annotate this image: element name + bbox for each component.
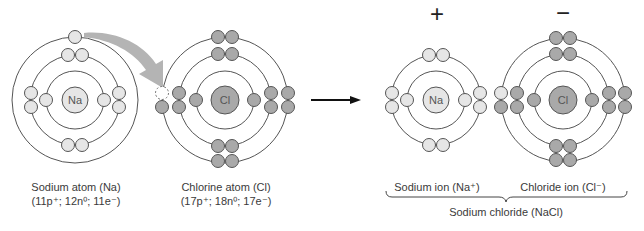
gained-electron <box>495 87 508 100</box>
electron <box>76 49 89 62</box>
electron <box>25 101 38 114</box>
electron <box>550 154 563 167</box>
electron <box>423 49 436 62</box>
electron <box>474 87 487 100</box>
electron <box>528 94 541 107</box>
sodium-chloride-label: Sodium chloride (NaCl) <box>449 206 563 218</box>
electron <box>401 94 414 107</box>
right-arrow-icon <box>311 96 361 104</box>
electron <box>173 87 186 100</box>
chlorine-atom-composition: (17p⁺; 18n⁰; 17e⁻) <box>181 195 272 207</box>
electron <box>550 140 563 153</box>
electron <box>564 32 577 45</box>
electron <box>226 140 239 153</box>
electron <box>564 140 577 153</box>
electron <box>62 49 75 62</box>
electron <box>248 94 261 107</box>
electron <box>511 87 524 100</box>
sodium-atom-composition: (11p⁺; 12n⁰; 11e⁻) <box>32 195 121 207</box>
electron <box>386 87 399 100</box>
electron <box>156 101 169 114</box>
electron <box>62 139 75 152</box>
electron <box>113 101 126 114</box>
electron <box>212 31 225 44</box>
electron <box>25 87 38 100</box>
chloride-ion: − Cl <box>495 0 632 167</box>
electron <box>459 94 472 107</box>
electron <box>212 155 225 168</box>
sodium-atom: Na <box>12 31 138 164</box>
chlorine-nucleus-label: Cl <box>220 94 230 106</box>
electron <box>564 154 577 167</box>
electron <box>282 101 295 114</box>
electron <box>190 94 203 107</box>
electron <box>386 101 399 114</box>
electron <box>603 87 616 100</box>
electron <box>212 140 225 153</box>
valence-electron <box>69 31 82 44</box>
electron <box>265 101 278 114</box>
electron <box>265 87 278 100</box>
chloride-ion-label: Chloride ion (Cl⁻) <box>520 181 605 193</box>
electron <box>226 155 239 168</box>
electron <box>40 94 53 107</box>
electron <box>113 87 126 100</box>
electron <box>423 139 436 152</box>
positive-charge-icon: + <box>430 0 444 27</box>
electron <box>619 101 632 114</box>
sodium-ion-label: Sodium ion (Na⁺) <box>394 181 479 193</box>
electron <box>564 48 577 61</box>
electron <box>226 31 239 44</box>
electron <box>98 94 111 107</box>
chlorine-atom: Cl <box>156 31 295 168</box>
electron <box>437 139 450 152</box>
electron <box>173 101 186 114</box>
electron <box>495 101 508 114</box>
negative-charge-icon: − <box>556 0 570 26</box>
electron <box>76 139 89 152</box>
sodium-atom-label: Sodium atom (Na) <box>31 181 120 193</box>
electron <box>226 48 239 61</box>
vacant-electron-slot <box>156 87 169 100</box>
electron <box>511 101 524 114</box>
electron <box>437 49 450 62</box>
electron <box>603 101 616 114</box>
sodium-ion: + Na <box>386 0 487 152</box>
sodium-ion-nucleus-label: Na <box>429 94 444 106</box>
electron <box>550 48 563 61</box>
nacl-ionic-bond-diagram: Na Cl <box>0 0 644 231</box>
electron <box>474 101 487 114</box>
chlorine-atom-label: Chlorine atom (Cl) <box>181 181 270 193</box>
sodium-nucleus-label: Na <box>68 94 83 106</box>
electron <box>212 48 225 61</box>
chloride-ion-nucleus-label: Cl <box>558 94 568 106</box>
electron <box>550 32 563 45</box>
electron <box>619 87 632 100</box>
electron <box>586 94 599 107</box>
electron <box>282 87 295 100</box>
